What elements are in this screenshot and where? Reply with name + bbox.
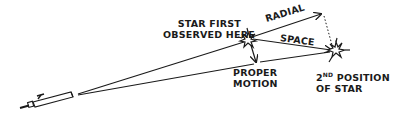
telescope-icon [20, 92, 73, 108]
label-line: OF STAR [316, 83, 390, 94]
ordinal-suffix: ND [323, 71, 333, 78]
label-text: POSITION [333, 72, 390, 83]
label-proper-motion: PROPER MOTION [233, 67, 278, 89]
star-second-position-icon [328, 38, 350, 62]
label-star-first-observed: STAR FIRST OBSERVED HERE [163, 18, 241, 40]
sight-line-to-second-star [78, 52, 330, 95]
label-line: STAR FIRST [163, 18, 241, 29]
label-second-position: 2ND POSITION OF STAR [316, 69, 390, 94]
label-line: PROPER [233, 67, 278, 78]
label-line: MOTION [233, 78, 278, 89]
sight-line-to-first-star [78, 42, 244, 94]
ordinal-number: 2 [316, 72, 323, 83]
label-line: 2ND POSITION [316, 69, 390, 83]
star-motion-diagram: STAR FIRST OBSERVED HERE RADIAL SPACE PR… [0, 0, 398, 113]
dotted-construction-line [324, 16, 332, 45]
label-line: OBSERVED HERE [163, 29, 241, 40]
diagram-canvas [0, 0, 398, 113]
